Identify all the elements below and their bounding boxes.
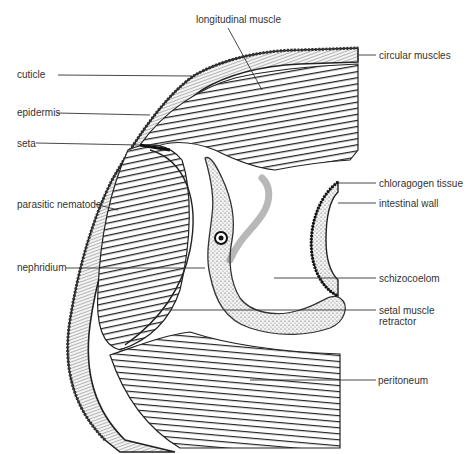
label-circular-muscles: circular muscles xyxy=(379,50,451,61)
label-setal-muscle-retractor-line2: retractor xyxy=(379,316,416,327)
label-chloragogen-tissue: chloragogen tissue xyxy=(379,178,463,189)
diagram-canvas: longitudinal muscle circular muscles cut… xyxy=(0,0,468,454)
longitudinal-muscle-left xyxy=(98,145,190,350)
label-peritoneum: peritoneum xyxy=(378,375,428,386)
label-epidermis: epidermis xyxy=(17,107,60,118)
label-setal-muscle-retractor-line1: setal muscle xyxy=(379,305,435,316)
longitudinal-muscle-lower xyxy=(110,332,340,448)
label-seta: seta xyxy=(17,138,36,149)
label-intestinal-wall: intestinal wall xyxy=(379,198,438,209)
label-parasitic-nematode: parasitic nematode xyxy=(17,199,102,210)
label-nephridium: nephridium xyxy=(17,262,66,273)
intestine-shape xyxy=(311,182,338,296)
label-schizocoelom: schizocoelom xyxy=(379,273,440,284)
label-longitudinal-muscle: longitudinal muscle xyxy=(196,14,281,25)
label-cuticle: cuticle xyxy=(17,69,45,80)
